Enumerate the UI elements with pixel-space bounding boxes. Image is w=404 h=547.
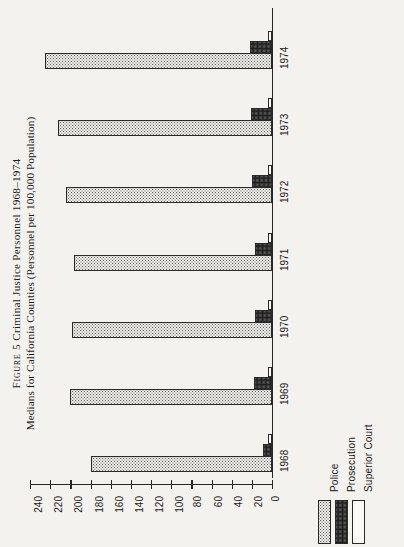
- axis-tick-40: [232, 480, 233, 489]
- year-label-1972: 1972: [279, 181, 290, 203]
- bar-prosecution-1971: [255, 243, 272, 255]
- legend-label-police: Police: [329, 464, 340, 492]
- bar-group-1972: [30, 142, 272, 209]
- axis-tick-160: [111, 480, 112, 489]
- axis-tick-label-240: 240: [33, 496, 44, 513]
- bar-superior-court-1973: [268, 98, 272, 108]
- axis-tick-100: [171, 480, 172, 489]
- year-label-1974: 1974: [279, 47, 290, 69]
- bar-superior-court-1971: [268, 233, 272, 243]
- axis-tick-180: [91, 480, 92, 489]
- axis-tick-label-40: 40: [232, 496, 243, 507]
- axis-tick-80: [191, 480, 192, 489]
- axis-tick-220: [50, 480, 51, 489]
- bar-prosecution-1972: [252, 175, 272, 187]
- bar-group-1971: [30, 209, 272, 276]
- year-label-1969: 1969: [279, 383, 290, 405]
- figure-title-line1: Figure 5 Criminal Justice Personnel 1968…: [10, 159, 22, 389]
- axis-tick-0: [272, 480, 273, 489]
- bar-prosecution-1974: [250, 41, 272, 53]
- axis-tick-label-200: 200: [74, 496, 85, 513]
- legend-swatch-superior-court: [352, 500, 365, 544]
- bar-group-1969: [30, 344, 272, 411]
- value-axis: 240220200180160140120100806040200: [30, 484, 273, 485]
- axis-tick-label-120: 120: [154, 496, 165, 513]
- bar-superior-court-1972: [268, 165, 272, 175]
- year-label-1970: 1970: [279, 315, 290, 337]
- axis-tick-label-20: 20: [252, 496, 263, 507]
- axis-tick-label-220: 220: [54, 496, 65, 513]
- legend-swatch-prosecution: [335, 500, 348, 544]
- bar-superior-court-1974: [268, 31, 272, 41]
- bar-police-1972: [66, 187, 272, 203]
- figure-number: Figure 5: [10, 344, 22, 389]
- bar-superior-court-1969: [268, 367, 272, 377]
- bar-prosecution-1973: [251, 108, 272, 120]
- axis-tick-200: [70, 480, 71, 489]
- axis-tick-label-80: 80: [192, 496, 203, 507]
- figure-page: Figure 5 Criminal Justice Personnel 1968…: [0, 0, 404, 547]
- bar-superior-court-1968: [268, 434, 272, 444]
- chart-legend: PoliceProsecutionSuperior Court: [318, 416, 402, 544]
- legend-label-prosecution: Prosecution: [346, 437, 357, 492]
- bar-group-1970: [30, 277, 272, 344]
- bar-police-1973: [58, 120, 272, 136]
- bar-police-1968: [91, 456, 273, 472]
- chart-plot-area: [30, 8, 272, 478]
- bar-police-1971: [74, 255, 272, 271]
- legend-swatch-police: [318, 500, 331, 544]
- axis-tick-60: [212, 480, 213, 489]
- axis-tick-140: [131, 480, 132, 489]
- axis-tick-240: [30, 480, 31, 489]
- axis-tick-label-100: 100: [175, 496, 186, 513]
- legend-label-superior-court: Superior Court: [363, 424, 374, 492]
- axis-tick-20: [252, 480, 253, 489]
- axis-tick-label-60: 60: [212, 496, 223, 507]
- bar-prosecution-1968: [263, 444, 272, 456]
- bar-police-1969: [70, 389, 272, 405]
- axis-tick-label-0: 0: [270, 496, 281, 502]
- bar-group-1973: [30, 75, 272, 142]
- bar-superior-court-1970: [268, 300, 272, 310]
- bar-prosecution-1970: [255, 310, 272, 322]
- year-label-1968: 1968: [279, 450, 290, 472]
- figure-title-text: Criminal Justice Personnel 1968–1974: [10, 159, 22, 344]
- bar-police-1970: [72, 322, 272, 338]
- axis-tick-label-180: 180: [94, 496, 105, 513]
- axis-tick-120: [151, 480, 152, 489]
- bar-police-1974: [45, 53, 272, 69]
- year-label-1973: 1973: [279, 114, 290, 136]
- year-label-1971: 1971: [279, 248, 290, 270]
- axis-tick-label-140: 140: [134, 496, 145, 513]
- bar-group-1968: [30, 411, 272, 478]
- axis-tick-label-160: 160: [114, 496, 125, 513]
- bar-prosecution-1969: [254, 377, 272, 389]
- bar-group-1974: [30, 8, 272, 75]
